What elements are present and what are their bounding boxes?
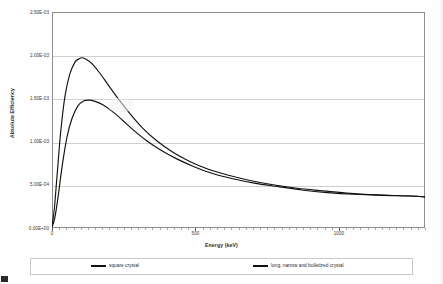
x-axis-minor-tick xyxy=(425,228,426,230)
series-line-0 xyxy=(52,58,425,227)
x-axis-minor-tick xyxy=(403,228,404,230)
scan-smudge-artifact xyxy=(108,98,134,112)
y-axis-tick-label: 2.00E-03 xyxy=(5,53,49,58)
x-axis-minor-tick xyxy=(88,228,89,230)
x-axis-major-tick xyxy=(195,228,196,231)
x-axis-minor-tick xyxy=(95,228,96,230)
x-axis-tick-label: 1000 xyxy=(324,231,354,236)
x-axis-minor-tick xyxy=(152,228,153,230)
legend-item-label: square crystal xyxy=(109,263,139,269)
x-axis-tick-label: 0 xyxy=(37,231,67,236)
x-axis-minor-tick xyxy=(224,228,225,230)
legend-item-square-crystal: square crystal xyxy=(91,263,139,269)
x-axis-minor-tick xyxy=(117,228,118,230)
curves-svg xyxy=(52,12,425,228)
series-layer xyxy=(52,12,425,228)
legend-line-swatch-icon xyxy=(91,265,106,267)
legend-item-label: long, narrow and bulletized crystal xyxy=(271,263,344,269)
x-axis-major-tick xyxy=(52,228,53,231)
x-axis-minor-tick xyxy=(325,228,326,230)
x-axis-minor-tick xyxy=(310,228,311,230)
x-axis-minor-tick xyxy=(160,228,161,230)
x-axis-minor-tick xyxy=(418,228,419,230)
x-axis-minor-tick xyxy=(59,228,60,230)
x-axis-minor-tick xyxy=(260,228,261,230)
x-axis-tick-label: 500 xyxy=(180,231,210,236)
x-axis-minor-tick xyxy=(253,228,254,230)
x-axis-minor-tick xyxy=(296,228,297,230)
y-axis-title: Absolute Efficiency xyxy=(9,65,15,161)
x-axis-minor-tick xyxy=(81,228,82,230)
x-axis-minor-tick xyxy=(138,228,139,230)
x-axis-minor-tick xyxy=(375,228,376,230)
x-axis-major-tick xyxy=(339,228,340,231)
x-axis-minor-tick xyxy=(109,228,110,230)
x-axis-minor-tick xyxy=(267,228,268,230)
scan-corner-artifact xyxy=(1,276,8,282)
x-axis-minor-tick xyxy=(203,228,204,230)
legend-item-long-narrow-bulletized-crystal: long, narrow and bulletized crystal xyxy=(253,263,344,269)
x-axis-minor-tick xyxy=(246,228,247,230)
x-axis-minor-tick xyxy=(360,228,361,230)
x-axis-minor-tick xyxy=(131,228,132,230)
x-axis-minor-tick xyxy=(353,228,354,230)
x-axis-title: Energy (keV) xyxy=(0,242,443,248)
x-axis-minor-tick xyxy=(167,228,168,230)
x-axis-minor-tick xyxy=(303,228,304,230)
chart-legend: square crystal long, narrow and bulletiz… xyxy=(30,258,413,275)
x-axis-minor-tick xyxy=(274,228,275,230)
x-axis-minor-tick xyxy=(66,228,67,230)
x-axis-minor-tick xyxy=(181,228,182,230)
x-axis-minor-tick xyxy=(289,228,290,230)
x-axis-minor-tick xyxy=(282,228,283,230)
series-line-1 xyxy=(52,100,425,227)
x-axis-minor-tick xyxy=(411,228,412,230)
x-axis-minor-tick xyxy=(174,228,175,230)
chart-container: 0.00E+005.00E-041.00E-031.50E-032.00E-03… xyxy=(0,0,443,284)
x-axis-minor-tick xyxy=(217,228,218,230)
scan-edge-shading xyxy=(439,0,443,284)
x-axis-minor-ticks xyxy=(52,228,425,231)
legend-line-swatch-icon xyxy=(253,265,268,267)
x-axis-minor-tick xyxy=(389,228,390,230)
x-axis-minor-tick xyxy=(239,228,240,230)
x-axis-minor-tick xyxy=(231,228,232,230)
y-axis-tick-label: 0.00E+00 xyxy=(5,226,49,231)
x-axis-minor-tick xyxy=(188,228,189,230)
x-axis-minor-tick xyxy=(74,228,75,230)
x-axis-minor-tick xyxy=(124,228,125,230)
y-axis-tick-label: 5.00E-04 xyxy=(5,182,49,187)
x-axis-minor-tick xyxy=(317,228,318,230)
x-axis-minor-tick xyxy=(368,228,369,230)
x-axis-minor-tick xyxy=(346,228,347,230)
x-axis-minor-tick xyxy=(145,228,146,230)
x-axis-minor-tick xyxy=(396,228,397,230)
y-axis-tick-label: 2.50E-03 xyxy=(5,10,49,15)
x-axis-minor-tick xyxy=(332,228,333,230)
x-axis-minor-tick xyxy=(102,228,103,230)
x-axis-minor-tick xyxy=(382,228,383,230)
x-axis-minor-tick xyxy=(210,228,211,230)
